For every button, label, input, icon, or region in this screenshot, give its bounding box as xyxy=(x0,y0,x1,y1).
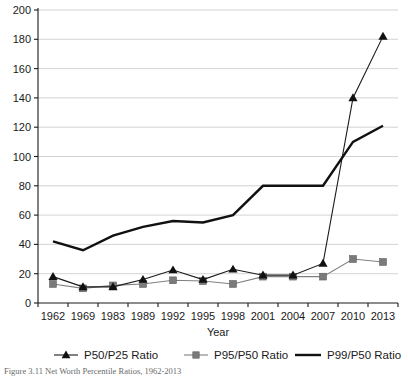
data-point-marker xyxy=(348,93,357,101)
y-tick-label: 160 xyxy=(13,63,31,75)
legend-marker-triangle-icon xyxy=(62,351,71,359)
data-point-marker xyxy=(170,277,177,284)
y-tick-label: 20 xyxy=(19,268,31,280)
x-tick-label: 1995 xyxy=(191,310,215,322)
legend-item: P95/P50 Ratio xyxy=(184,349,288,361)
x-tick-label: 2001 xyxy=(251,310,275,322)
series-p50-p25-ratio xyxy=(48,32,387,290)
x-tick-label: 2010 xyxy=(341,310,365,322)
data-point-marker xyxy=(378,32,387,40)
x-tick-label: 1983 xyxy=(101,310,125,322)
x-axis-title: Year xyxy=(207,326,230,338)
x-tick-label: 1998 xyxy=(221,310,245,322)
series-line xyxy=(53,126,383,251)
x-axis-ticks-group: 1962196919831989199219951998200120042007… xyxy=(38,303,398,322)
data-point-marker xyxy=(168,265,177,273)
data-point-marker xyxy=(230,281,237,288)
legend-label: P95/P50 Ratio xyxy=(214,349,288,361)
legend-item: P50/P25 Ratio xyxy=(54,349,158,361)
data-point-marker xyxy=(320,273,327,280)
legend: P50/P25 RatioP95/P50 RatioP99/P50 Ratio xyxy=(54,349,401,361)
series-line xyxy=(53,36,383,287)
data-point-marker xyxy=(380,259,387,266)
series-p99-p50-ratio xyxy=(53,126,383,251)
y-tick-label: 200 xyxy=(13,4,31,16)
legend-label: P99/P50 Ratio xyxy=(327,349,401,361)
x-tick-label: 2013 xyxy=(371,310,395,322)
y-tick-label: 140 xyxy=(13,92,31,104)
y-tick-label: 120 xyxy=(13,121,31,133)
figure-container: 0204060801001201401601802001962196919831… xyxy=(0,0,408,377)
x-tick-label: 1992 xyxy=(161,310,185,322)
x-tick-label: 1969 xyxy=(71,310,95,322)
x-tick-label: 1989 xyxy=(131,310,155,322)
legend-marker-square-icon xyxy=(193,352,199,358)
data-point-marker xyxy=(48,272,57,280)
data-point-marker xyxy=(350,256,357,263)
data-point-marker xyxy=(318,259,327,267)
gridlines-group: 020406080100120140160180200 xyxy=(13,4,398,309)
data-point-marker xyxy=(228,265,237,273)
y-tick-label: 40 xyxy=(19,238,31,250)
legend-item: P99/P50 Ratio xyxy=(295,349,401,361)
x-tick-label: 1962 xyxy=(41,310,65,322)
y-tick-label: 100 xyxy=(13,151,31,163)
net-worth-percentile-ratios-chart: 0204060801001201401601802001962196919831… xyxy=(0,0,408,377)
x-tick-label: 2004 xyxy=(281,310,305,322)
data-point-marker xyxy=(50,281,57,288)
y-tick-label: 60 xyxy=(19,209,31,221)
y-tick-label: 180 xyxy=(13,33,31,45)
figure-caption: Figure 3.11 Net Worth Percentile Ratios,… xyxy=(4,366,404,376)
legend-label: P50/P25 Ratio xyxy=(84,349,158,361)
y-tick-label: 80 xyxy=(19,180,31,192)
y-tick-label: 0 xyxy=(25,297,31,309)
x-tick-label: 2007 xyxy=(311,310,335,322)
